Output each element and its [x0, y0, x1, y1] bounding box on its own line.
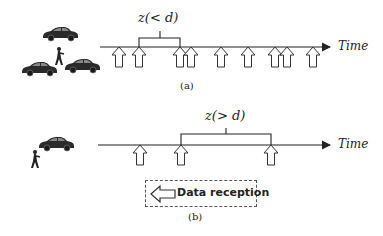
- caption-b: (b): [188, 211, 202, 222]
- interval-bracket-b: [181, 128, 271, 145]
- time-axis-label-a: Time: [338, 39, 368, 53]
- reception-arrows-b: [133, 145, 278, 165]
- reception-arrow-icon: [132, 47, 146, 67]
- reception-arrow-icon: [173, 47, 187, 67]
- car-icon: [43, 27, 78, 41]
- left-hollow-arrow-icon: [149, 182, 179, 207]
- actors-b: [31, 137, 74, 168]
- reception-arrows-a: [112, 47, 320, 67]
- caption-a: (a): [180, 80, 194, 91]
- actors-a: [22, 27, 100, 76]
- pedestrian-icon: [55, 47, 64, 65]
- reception-arrow-icon: [133, 145, 147, 165]
- pedestrian-icon: [31, 150, 40, 168]
- legend: Data reception: [145, 180, 257, 207]
- reception-arrow-icon: [241, 47, 255, 67]
- car-icon: [65, 59, 100, 73]
- reception-arrow-icon: [306, 47, 320, 67]
- reception-arrow-icon: [268, 47, 282, 67]
- figure: z(< d) Time (a) z(> d) Time (b) Data rec…: [0, 0, 383, 236]
- reception-arrow-icon: [214, 47, 228, 67]
- reception-arrow-icon: [112, 47, 126, 67]
- reception-arrow-icon: [184, 47, 198, 67]
- interval-bracket-a: [139, 31, 180, 47]
- legend-label: Data reception: [177, 186, 269, 199]
- car-icon: [39, 137, 74, 151]
- panel-b: [31, 128, 330, 168]
- reception-arrow-icon: [280, 47, 294, 67]
- reception-arrow-icon: [264, 145, 278, 165]
- interval-label-a: z(< d): [138, 10, 178, 25]
- interval-label-b: z(> d): [205, 108, 245, 123]
- time-axis-label-b: Time: [338, 137, 368, 151]
- panel-a: [22, 27, 330, 76]
- reception-arrow-icon: [174, 145, 188, 165]
- car-icon: [22, 62, 57, 76]
